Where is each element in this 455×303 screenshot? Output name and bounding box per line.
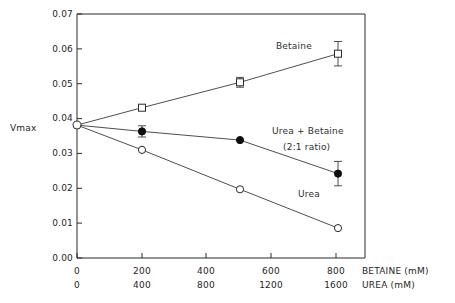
x-tick-betaine-400: 400 bbox=[191, 266, 221, 276]
series-label-urea-betaine-ratio: (2:1 ratio) bbox=[283, 142, 330, 152]
y-tick-label-007: 0.07 bbox=[29, 9, 73, 19]
x-tick-betaine-800: 800 bbox=[321, 266, 351, 276]
x-tick-urea-800: 800 bbox=[191, 280, 221, 290]
data-point-urea-500 bbox=[236, 186, 243, 193]
series-label-urea-betaine: Urea + Betaine bbox=[272, 126, 344, 136]
series-label-urea: Urea bbox=[298, 189, 320, 199]
x-tick-betaine-200: 200 bbox=[127, 266, 157, 276]
series-label-betaine: Betaine bbox=[276, 41, 312, 51]
x-tick-urea-1600: 1600 bbox=[319, 280, 353, 290]
x-tick-urea-0: 0 bbox=[62, 280, 92, 290]
y-tick-label-001: 0.01 bbox=[29, 218, 73, 228]
x-tick-betaine-600: 600 bbox=[256, 266, 286, 276]
y-tick-label-002: 0.02 bbox=[29, 183, 73, 193]
x-axis-title-urea: UREA (mM) bbox=[362, 280, 415, 290]
data-point-mix-200 bbox=[138, 128, 145, 135]
series-urea bbox=[73, 121, 342, 232]
y-tick-label-004: 0.04 bbox=[29, 113, 73, 123]
x-tick-urea-400: 400 bbox=[127, 280, 157, 290]
data-point-mix-800 bbox=[334, 170, 341, 177]
data-point-betaine-800 bbox=[335, 50, 342, 57]
y-axis-title: Vmax bbox=[10, 123, 37, 133]
y-tick-label-005: 0.05 bbox=[29, 79, 73, 89]
series-betaine bbox=[77, 42, 342, 126]
data-point-origin bbox=[73, 121, 81, 129]
y-tick-marks bbox=[77, 14, 82, 258]
data-point-betaine-200 bbox=[139, 104, 146, 111]
y-tick-label-000: 0.00 bbox=[29, 253, 73, 263]
x-axis-title-betaine: BETAINE (mM) bbox=[362, 266, 429, 276]
x-tick-betaine-0: 0 bbox=[62, 266, 92, 276]
y-tick-label-003: 0.03 bbox=[29, 148, 73, 158]
x-tick-urea-1200: 1200 bbox=[254, 280, 288, 290]
data-point-betaine-500 bbox=[237, 79, 244, 86]
chart-figure: 0.07 0.06 0.05 0.04 0.03 0.02 0.01 0.00 … bbox=[0, 0, 455, 303]
data-point-urea-800 bbox=[334, 225, 341, 232]
y-tick-label-006: 0.06 bbox=[29, 44, 73, 54]
data-point-urea-200 bbox=[138, 146, 145, 153]
data-point-mix-500 bbox=[236, 137, 243, 144]
x-tick-marks bbox=[77, 253, 336, 258]
